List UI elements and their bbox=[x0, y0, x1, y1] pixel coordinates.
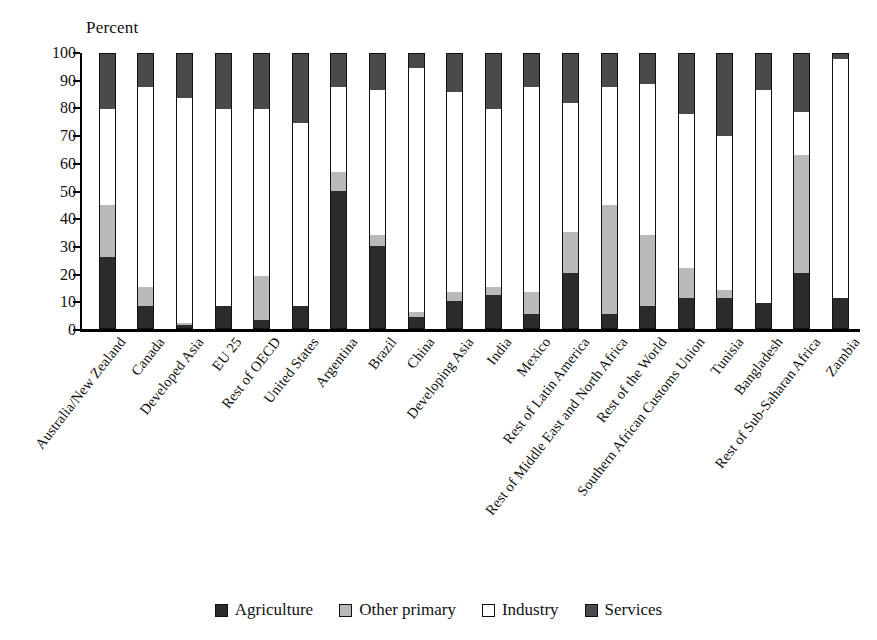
bar-segment-services bbox=[717, 54, 732, 136]
stacked-bar[interactable] bbox=[330, 53, 347, 329]
bar-segment-other-primary bbox=[331, 172, 346, 191]
y-tick-label: 90 bbox=[42, 72, 76, 90]
bar-segment-agriculture bbox=[794, 273, 809, 328]
stacked-bar[interactable] bbox=[137, 53, 154, 329]
stacked-bar[interactable] bbox=[369, 53, 386, 329]
bar-slot bbox=[397, 53, 436, 329]
bar-segment-agriculture bbox=[293, 306, 308, 328]
stacked-bar[interactable] bbox=[485, 53, 502, 329]
stacked-bar[interactable] bbox=[523, 53, 540, 329]
bar-segment-agriculture bbox=[679, 298, 694, 328]
bar-segment-other-primary bbox=[177, 323, 192, 326]
stacked-bar[interactable] bbox=[832, 53, 849, 329]
stacked-bar[interactable] bbox=[639, 53, 656, 329]
swatch-agriculture-icon bbox=[215, 604, 228, 617]
bar-segment-industry bbox=[216, 109, 231, 306]
bar-segment-industry bbox=[524, 87, 539, 293]
stacked-bar[interactable] bbox=[292, 53, 309, 329]
bar-segment-agriculture bbox=[177, 325, 192, 328]
bar-segment-other-primary bbox=[409, 312, 424, 317]
x-category-label: Australia/New Zealand bbox=[32, 334, 130, 452]
bar-segment-agriculture bbox=[563, 273, 578, 328]
stacked-bar[interactable] bbox=[253, 53, 270, 329]
stacked-bar[interactable] bbox=[716, 53, 733, 329]
stacked-bar[interactable] bbox=[215, 53, 232, 329]
bar-slot bbox=[281, 53, 320, 329]
bar-segment-services bbox=[563, 54, 578, 103]
bar-segment-agriculture bbox=[331, 191, 346, 328]
bar-segment-other-primary bbox=[524, 292, 539, 314]
bar-slot bbox=[358, 53, 397, 329]
chart-root: Percent 0102030405060708090100 Australia… bbox=[0, 0, 877, 640]
bar-segment-other-primary bbox=[640, 235, 655, 306]
bar-slot bbox=[590, 53, 629, 329]
stacked-bar[interactable] bbox=[601, 53, 618, 329]
bar-segment-industry bbox=[100, 109, 115, 205]
bar-segment-industry bbox=[717, 136, 732, 289]
legend-item[interactable]: Services bbox=[585, 600, 663, 620]
bar-segment-industry bbox=[486, 109, 501, 287]
bar-segment-services bbox=[640, 54, 655, 84]
stacked-bar[interactable] bbox=[408, 53, 425, 329]
stacked-bar[interactable] bbox=[99, 53, 116, 329]
bar-segment-other-primary bbox=[563, 232, 578, 273]
bar-segment-agriculture bbox=[138, 306, 153, 328]
bar-segment-services bbox=[177, 54, 192, 98]
bar-segment-industry bbox=[679, 114, 694, 267]
swatch-services-icon bbox=[585, 604, 598, 617]
bar-segment-services bbox=[216, 54, 231, 109]
bar-segment-other-primary bbox=[254, 276, 269, 320]
x-category-label: China bbox=[403, 334, 438, 372]
bar-segment-agriculture bbox=[756, 303, 771, 328]
bar-slot bbox=[242, 53, 281, 329]
bar-slot bbox=[744, 53, 783, 329]
bar-segment-industry bbox=[409, 68, 424, 312]
x-category-label: Zambia bbox=[822, 334, 863, 380]
bar-segment-industry bbox=[833, 60, 848, 298]
chart-legend: AgricultureOther primaryIndustryServices bbox=[0, 600, 877, 620]
stacked-bar[interactable] bbox=[678, 53, 695, 329]
legend-item[interactable]: Industry bbox=[482, 600, 559, 620]
x-category-label: Tunisia bbox=[707, 334, 747, 379]
x-category-label: Brazil bbox=[364, 334, 400, 373]
swatch-industry-icon bbox=[482, 604, 495, 617]
bar-segment-other-primary bbox=[447, 292, 462, 300]
bar-segment-agriculture bbox=[254, 320, 269, 328]
y-tick-label: 30 bbox=[42, 238, 76, 256]
bar-segment-agriculture bbox=[640, 306, 655, 328]
swatch-other-primary-icon bbox=[339, 604, 352, 617]
bar-segment-other-primary bbox=[138, 287, 153, 306]
stacked-bar[interactable] bbox=[755, 53, 772, 329]
bar-segment-industry bbox=[563, 103, 578, 232]
bar-segment-services bbox=[293, 54, 308, 123]
legend-item[interactable]: Other primary bbox=[339, 600, 456, 620]
y-axis-line bbox=[80, 53, 82, 330]
bar-slot bbox=[783, 53, 822, 329]
bar-slot bbox=[165, 53, 204, 329]
bar-slot bbox=[474, 53, 513, 329]
y-tick-label: 0 bbox=[42, 321, 76, 339]
bar-slot bbox=[88, 53, 127, 329]
x-axis-line bbox=[80, 329, 860, 332]
bar-slot bbox=[551, 53, 590, 329]
bar-segment-services bbox=[331, 54, 346, 87]
bar-segment-agriculture bbox=[100, 257, 115, 328]
y-axis-title: Percent bbox=[86, 18, 138, 38]
bar-segment-industry bbox=[331, 87, 346, 172]
bar-segment-services bbox=[833, 54, 848, 59]
bar-segment-industry bbox=[640, 84, 655, 235]
stacked-bar[interactable] bbox=[446, 53, 463, 329]
stacked-bar[interactable] bbox=[176, 53, 193, 329]
y-tick-label: 60 bbox=[42, 155, 76, 173]
bar-segment-agriculture bbox=[524, 314, 539, 328]
bar-segment-other-primary bbox=[486, 287, 501, 295]
bar-segment-services bbox=[602, 54, 617, 87]
bar-slot bbox=[706, 53, 745, 329]
stacked-bar[interactable] bbox=[562, 53, 579, 329]
bar-segment-services bbox=[679, 54, 694, 114]
stacked-bar[interactable] bbox=[793, 53, 810, 329]
plot-area bbox=[88, 53, 860, 329]
bar-segment-agriculture bbox=[486, 295, 501, 328]
legend-item[interactable]: Agriculture bbox=[215, 600, 313, 620]
bar-segment-industry bbox=[138, 87, 153, 287]
